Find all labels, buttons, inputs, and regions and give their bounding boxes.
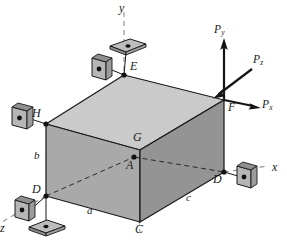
axis-label-x: x — [272, 161, 277, 173]
support-Dleft-horizontal — [29, 220, 65, 236]
force-label-Py: Py — [214, 24, 225, 36]
axis-label-y: y — [119, 2, 124, 14]
block-diagram-svg — [0, 0, 287, 241]
vertex-label-G: G — [133, 131, 142, 143]
vertex-label-A: A — [126, 159, 133, 171]
vertex-label-C: C — [135, 223, 143, 235]
support-H-vertical — [12, 103, 33, 129]
vertex-dot-H — [43, 121, 48, 126]
force-label-Py-sub: y — [221, 28, 224, 37]
support-E-horizontal — [110, 39, 146, 55]
dimension-label-c: c — [186, 192, 191, 203]
dimension-label-b: b — [34, 150, 40, 161]
dimension-label-a: a — [87, 205, 93, 216]
vertex-label-F: F — [228, 101, 235, 113]
vertex-label-H: H — [32, 107, 41, 119]
vertex-dot-D-right — [221, 169, 226, 174]
figure-container: y x z E F H G A D C D a b c Py Pz Px — [0, 0, 287, 241]
force-label-Px: Px — [262, 99, 273, 111]
force-label-Pz-base: P — [253, 53, 260, 65]
support-Dright-vertical — [237, 162, 257, 188]
force-label-Px-base: P — [262, 98, 269, 110]
vertex-label-D-left: D — [32, 183, 41, 195]
vertex-dot-D-left — [43, 193, 48, 198]
axis-label-z: z — [0, 222, 5, 234]
vertex-dot-E — [121, 72, 126, 77]
vertex-label-D-right: D — [213, 173, 222, 185]
support-E-vertical — [92, 54, 112, 80]
force-label-Px-sub: x — [269, 103, 272, 112]
support-Dleft-vertical — [15, 196, 35, 221]
vertex-label-E: E — [130, 60, 137, 72]
force-label-Pz: Pz — [253, 54, 263, 66]
force-label-Pz-sub: z — [260, 58, 263, 67]
force-label-Py-base: P — [214, 23, 221, 35]
